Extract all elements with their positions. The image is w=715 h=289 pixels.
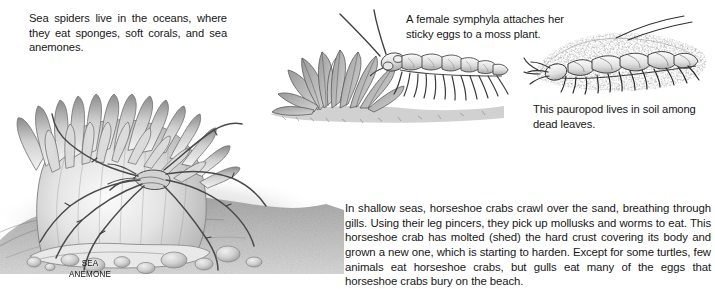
page-canvas: Sea spiders live in the oceans, where th…: [0, 0, 715, 289]
caption-sea-spiders: Sea spiders live in the oceans, where th…: [29, 11, 227, 55]
caption-pauropod: This pauropod lives in soil among dead l…: [533, 102, 709, 131]
caption-horseshoe-crab: In shallow seas, horseshoe crabs crawl o…: [345, 201, 711, 289]
label-sea-anemone: SEA ANEMONE: [44, 258, 136, 281]
caption-symphyla: A female symphyla attaches her sticky eg…: [406, 12, 564, 41]
symphyla-antennae: [340, 10, 386, 56]
